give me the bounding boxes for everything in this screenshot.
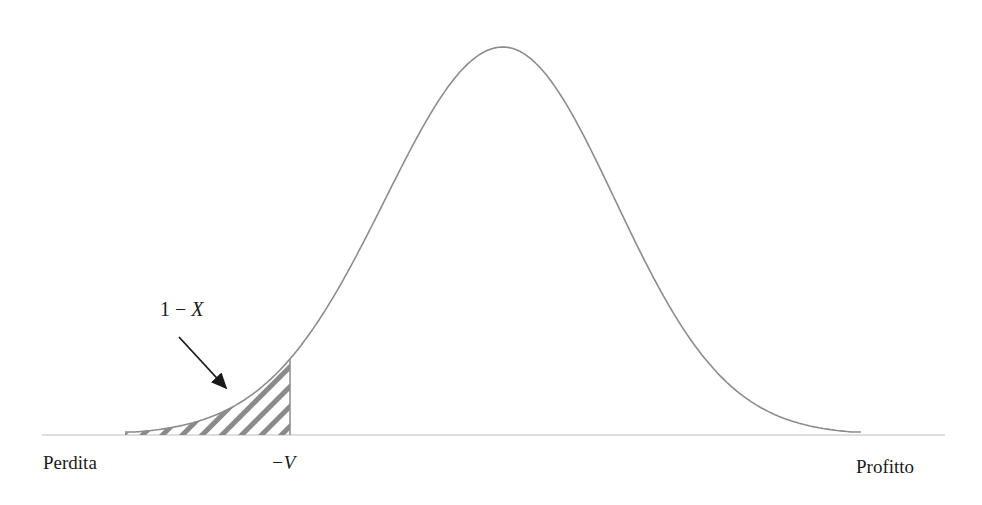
profit-axis-label: Profitto [856,456,914,478]
var-distribution-diagram [0,0,982,505]
tail-area-label: 1 − X [160,298,204,321]
threshold-label: −V [271,452,295,474]
distribution-curve [125,47,861,432]
loss-axis-label: Perdita [43,452,97,474]
tail-area-label-var: X [191,298,203,320]
tail-area-label-prefix: 1 − [160,298,191,320]
arrow-icon [179,337,226,388]
tail-area-hatch [100,300,300,440]
